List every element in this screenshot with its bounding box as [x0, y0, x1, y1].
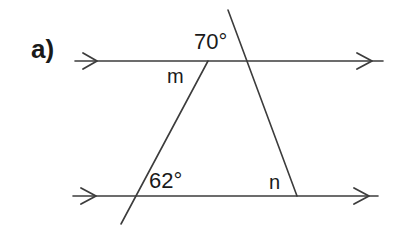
- right-transversal-line: [228, 10, 297, 196]
- part-label: a): [31, 36, 54, 62]
- geometry-figure: a) 70° m 62° n: [0, 0, 409, 231]
- angle-label-m: m: [167, 66, 184, 86]
- left-transversal-line: [121, 61, 208, 224]
- angle-label-n: n: [269, 172, 280, 192]
- angle-label-70: 70°: [194, 31, 227, 53]
- angle-label-62: 62°: [149, 170, 182, 192]
